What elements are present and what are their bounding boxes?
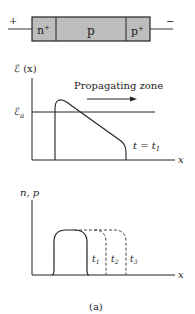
- carrier-pulse-t2: [74, 230, 106, 275]
- time-label-t2: t2: [111, 254, 119, 265]
- carrier-pulse-t1: [52, 230, 89, 275]
- arrow-head-icon: [130, 97, 137, 102]
- plus-terminal-label: +: [9, 15, 17, 26]
- field-profile-curve: [55, 100, 126, 160]
- carrier-axis-label: n, p: [20, 187, 40, 198]
- minus-terminal-label: −: [166, 16, 174, 27]
- field-time-label: t = t1: [133, 140, 160, 153]
- device-structure: + − n+ p p+: [8, 15, 174, 41]
- diagram-canvas: + − n+ p p+ ℰ (x) x ℰa Propagating zone …: [0, 0, 195, 314]
- carrier-x-label: x: [178, 269, 184, 280]
- threshold-label: ℰa: [14, 106, 24, 120]
- carrier-pulse-t3: [94, 230, 126, 275]
- carrier-plot: n, p x t1 t2 t3: [20, 187, 184, 280]
- time-label-t1: t1: [92, 254, 99, 265]
- propagating-zone-label: Propagating zone: [74, 80, 163, 91]
- time-label-t3: t3: [130, 254, 138, 265]
- field-x-label: x: [178, 154, 184, 165]
- field-plot: ℰ (x) x ℰa Propagating zone t = t1: [14, 63, 184, 165]
- field-axis-label: ℰ (x): [14, 63, 37, 74]
- figure-caption: (a): [89, 301, 103, 312]
- region-p-label: p: [87, 24, 95, 38]
